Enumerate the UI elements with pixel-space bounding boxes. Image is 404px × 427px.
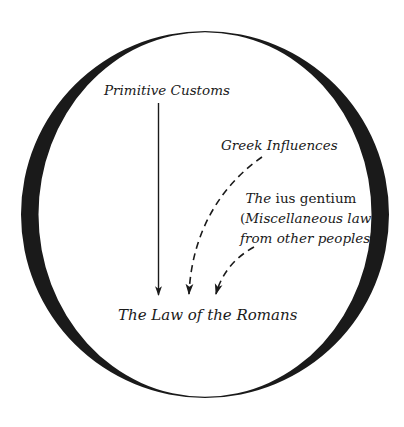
node-greek-influences: Greek Influences (221, 139, 338, 153)
node-primitive-customs: Primitive Customs (104, 84, 230, 98)
ius-gentium-line-2: (Miscellaneous law (240, 208, 362, 228)
ius-gentium-line-1: The ius gentium (240, 188, 362, 208)
node-ius-gentium: The ius gentium (Miscellaneous law from … (240, 188, 362, 248)
ius-gentium-prefix: The (246, 190, 272, 206)
ius-gentium-desc-1: Miscellaneous law (245, 210, 371, 226)
ius-gentium-desc-2: from other peoples (240, 230, 370, 246)
arrow-ius-gentium (216, 247, 254, 294)
ius-gentium-term: ius gentium (271, 190, 356, 206)
ius-gentium-line-3: from other peoples) (240, 228, 362, 248)
close-paren: ) (370, 230, 375, 246)
diagram-canvas: Primitive Customs Greek Influences The i… (0, 0, 404, 427)
node-law-of-the-romans: The Law of the Romans (118, 308, 297, 323)
